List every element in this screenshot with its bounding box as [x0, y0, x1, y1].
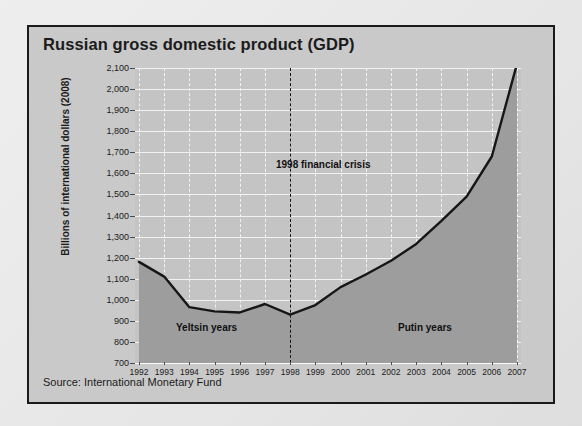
y-axis-label: 1,800: [106, 126, 129, 136]
gdp-area-fill: [139, 68, 517, 363]
x-axis-tick: [467, 362, 468, 365]
x-axis-label: 1996: [230, 367, 249, 377]
x-axis-tick: [290, 362, 291, 365]
x-axis-label: 2001: [356, 367, 375, 377]
y-axis-label: 800: [114, 337, 129, 347]
x-axis-tick: [240, 362, 241, 365]
x-axis-label: 1998: [281, 367, 300, 377]
x-axis-label: 2000: [331, 367, 350, 377]
annotation-crisis: 1998 financial crisis: [276, 159, 371, 170]
y-axis-label: 1,500: [106, 189, 129, 199]
x-axis-label: 2007: [508, 367, 527, 377]
y-axis-label: 2,000: [106, 84, 129, 94]
y-axis-label: 1,000: [106, 295, 129, 305]
annotation-putin: Putin years: [398, 322, 452, 333]
x-axis-label: 1999: [306, 367, 325, 377]
y-axis-label: 900: [114, 316, 129, 326]
x-axis-tick: [441, 362, 442, 365]
x-axis-tick: [215, 362, 216, 365]
y-axis-label: 700: [114, 358, 129, 368]
y-axis-label: 1,700: [106, 147, 129, 157]
x-axis-label: 2002: [382, 367, 401, 377]
x-axis-tick: [164, 362, 165, 365]
x-axis-tick: [341, 362, 342, 365]
x-axis-line: [135, 363, 521, 364]
y-axis-label: 1,600: [106, 168, 129, 178]
x-axis-tick: [139, 362, 140, 365]
y-axis-label: 1,100: [106, 274, 129, 284]
x-axis-tick: [492, 362, 493, 365]
x-axis-tick: [366, 362, 367, 365]
y-axis-tick-labels: 7008009001,0001,1001,2001,3001,4001,5001…: [69, 68, 129, 363]
x-axis-tick: [189, 362, 190, 365]
crisis-marker-line: [290, 68, 291, 363]
x-axis-tick: [265, 362, 266, 365]
chart-card: Russian gross domestic product (GDP) Bil…: [27, 25, 555, 404]
y-axis-label: 1,400: [106, 211, 129, 221]
x-axis-label: 2006: [482, 367, 501, 377]
y-axis-label: 1,200: [106, 253, 129, 263]
plot-area: [135, 68, 521, 363]
x-axis-tick: [517, 362, 518, 365]
plot-wrapper: [135, 68, 521, 363]
x-axis-tick: [391, 362, 392, 365]
y-axis-label: 1,300: [106, 232, 129, 242]
annotation-yeltsin: Yeltsin years: [176, 322, 237, 333]
x-axis-label: 2004: [432, 367, 451, 377]
y-axis-label: 1,900: [106, 105, 129, 115]
gdp-area-series: [135, 68, 521, 363]
x-axis-label: 2005: [457, 367, 476, 377]
x-axis-label: 2003: [407, 367, 426, 377]
x-axis-tick: [315, 362, 316, 365]
x-axis-tick: [416, 362, 417, 365]
chart-title: Russian gross domestic product (GDP): [43, 35, 355, 54]
y-axis-label: 2,100: [106, 63, 129, 73]
x-axis-label: 1997: [256, 367, 275, 377]
source-note: Source: International Monetary Fund: [43, 376, 222, 388]
